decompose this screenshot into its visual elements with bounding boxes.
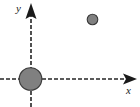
large-circle-origin (19, 68, 42, 91)
x-axis-label: x (126, 85, 131, 96)
small-circle-upper-right (87, 14, 98, 25)
x-axis-arrowhead-icon (123, 74, 137, 85)
coordinate-axes-diagram (0, 0, 140, 107)
y-axis-label: y (16, 3, 21, 14)
diagram-canvas: y x (0, 0, 140, 107)
